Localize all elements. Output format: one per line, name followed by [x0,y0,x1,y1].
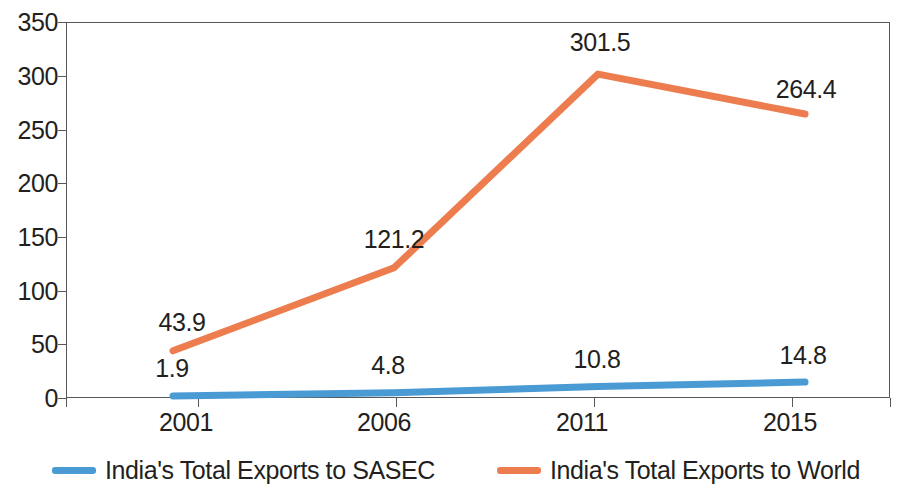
data-label-world-2001: 43.9 [158,310,205,335]
series-layer [0,0,912,489]
data-label-sasec-2011: 10.8 [573,347,620,372]
legend-item-sasec[interactable]: India's Total Exports to SASEC [52,457,435,484]
data-label-world-2015: 264.4 [776,77,837,102]
series-line-world [173,74,805,351]
legend-swatch-sasec [52,467,96,474]
data-label-sasec-2015: 14.8 [779,343,826,368]
chart-legend: India's Total Exports to SASEC India's T… [0,452,912,489]
legend-label-sasec: India's Total Exports to SASEC [105,457,435,484]
data-label-sasec-2006: 4.8 [371,353,405,378]
data-label-sasec-2001: 1.9 [155,356,189,381]
series-line-sasec [173,382,805,396]
legend-label-world: India's Total Exports to World [550,457,860,484]
line-chart: 350 300 250 200 150 100 50 0 2001 2006 2… [0,0,912,489]
legend-swatch-world [497,467,541,474]
legend-item-world[interactable]: India's Total Exports to World [497,457,860,484]
data-label-world-2011: 301.5 [570,30,631,55]
data-label-world-2006: 121.2 [364,227,425,252]
